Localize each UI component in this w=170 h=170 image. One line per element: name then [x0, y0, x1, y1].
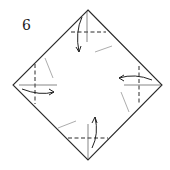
- origami-diagram: [0, 0, 170, 170]
